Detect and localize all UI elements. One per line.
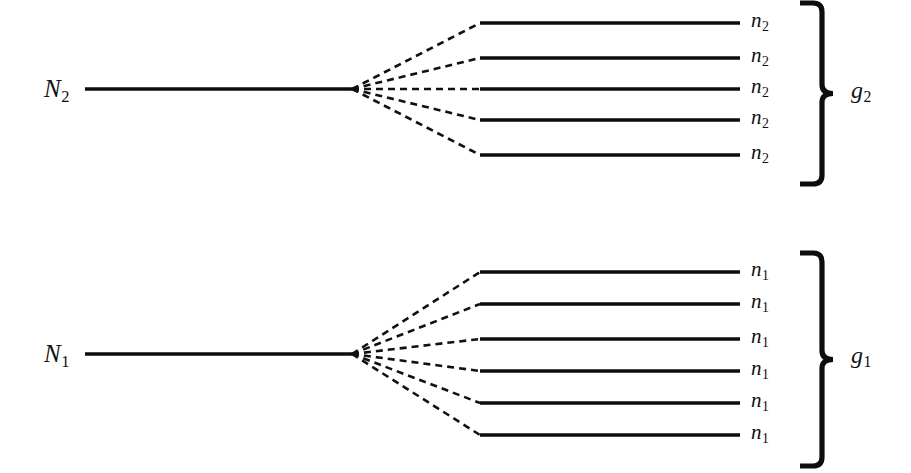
lower-trunk-label: N1 xyxy=(44,341,69,370)
fan-connector-line xyxy=(352,354,480,435)
sublevel-label: n1 xyxy=(751,291,769,315)
upper-fan-lines xyxy=(352,23,480,155)
upper-level-lines xyxy=(480,23,740,155)
fan-connector-line xyxy=(352,89,480,155)
fan-connector-line xyxy=(352,23,480,89)
sublevel-label: n1 xyxy=(751,326,769,350)
sublevel-label: n1 xyxy=(751,422,769,446)
lower-fan-lines xyxy=(352,272,480,435)
sublevel-label: n2 xyxy=(751,107,769,131)
upper-brace-label: g2 xyxy=(851,78,871,105)
energy-level-diagram: N2 g2 N1 g1 n2n2n2n2n2n1n1n1n1n1n1 xyxy=(0,0,911,473)
sublevel-label: n2 xyxy=(751,142,769,166)
upper-energy-group xyxy=(85,3,833,184)
lower-brace-label: g1 xyxy=(851,343,871,370)
lower-level-lines xyxy=(480,272,740,435)
sublevel-label: n2 xyxy=(751,10,769,34)
fan-connector-line xyxy=(352,354,480,371)
sublevel-label: n2 xyxy=(751,76,769,100)
fan-connector-line xyxy=(352,58,480,89)
upper-brace xyxy=(800,3,833,184)
fan-connector-line xyxy=(352,89,480,120)
lower-brace xyxy=(800,253,833,466)
lower-energy-group xyxy=(85,253,833,466)
fan-connector-line xyxy=(352,339,480,354)
sublevel-label: n2 xyxy=(751,45,769,69)
sublevel-label: n1 xyxy=(751,358,769,382)
sublevel-label: n1 xyxy=(751,259,769,283)
diagram-canvas xyxy=(0,0,911,473)
upper-trunk-label: N2 xyxy=(44,76,69,105)
sublevel-label: n1 xyxy=(751,390,769,414)
